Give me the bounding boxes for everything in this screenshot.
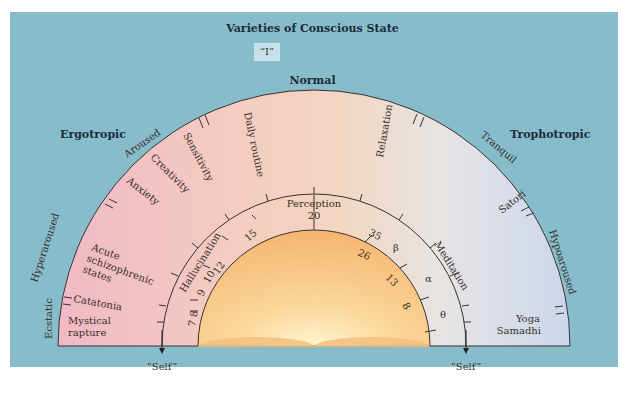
conscious-state-diagram: [0, 0, 625, 393]
trophotropic-label: Trophotropic: [510, 128, 590, 141]
ergotropic-label: Ergotropic: [60, 128, 126, 141]
normal-label: Normal: [0, 74, 625, 87]
diagram-title: Varieties of Conscious State: [0, 22, 625, 35]
i-label-box: “I”: [254, 43, 280, 61]
